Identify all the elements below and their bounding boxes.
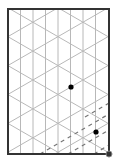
dashed-line [68,130,109,154]
grid-diagonal-up-line [8,0,109,8]
point-b [93,129,98,134]
grid-lines [8,0,109,163]
corner-point [106,151,112,157]
points [68,84,112,157]
point-a [68,84,73,89]
grid-diagonal-down-line [8,0,109,8]
isometric-grid-diagram [0,0,119,163]
dashed-line [40,114,109,154]
